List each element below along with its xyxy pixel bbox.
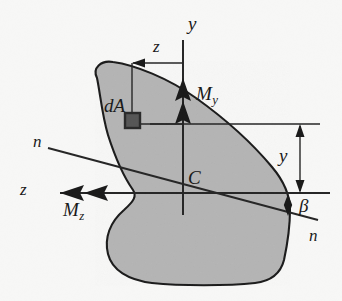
moment-z-label: Mz: [63, 200, 84, 223]
z-distance-label: z: [153, 38, 160, 55]
neutral-axis-label-left: n: [33, 133, 42, 150]
moment-y-label: My: [196, 84, 218, 107]
y-dimension-arrowhead-bottom: [296, 180, 305, 193]
moment-z-subscript: z: [79, 208, 84, 223]
moment-y-symbol: M: [196, 83, 212, 104]
diagram-canvas: [0, 0, 342, 301]
moment-y-subscript: y: [212, 92, 218, 107]
centroid-label: C: [188, 168, 201, 187]
cross-section-diagram: y z My dA n y C z Mz β n: [0, 0, 342, 301]
area-element-square: [125, 113, 140, 128]
y-distance-label: y: [279, 146, 287, 165]
moment-z-symbol: M: [63, 199, 79, 220]
y-dimension-arrowhead-top: [296, 124, 305, 137]
beta-angle-label: β: [299, 196, 308, 215]
neutral-axis-label-right: n: [309, 227, 318, 244]
y-axis-label: y: [188, 14, 196, 33]
area-element-label: dA: [104, 96, 125, 115]
z-axis-label: z: [20, 181, 27, 198]
